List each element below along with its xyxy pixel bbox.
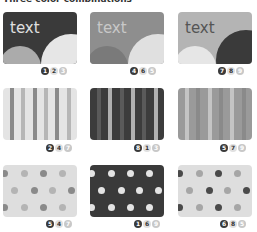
- stripe: [10, 88, 14, 140]
- dot: [98, 187, 105, 194]
- dot: [146, 204, 153, 211]
- dot: [155, 187, 162, 194]
- circle-shape: [128, 34, 164, 64]
- color-number-badge: 5: [220, 144, 228, 152]
- dot: [243, 187, 250, 194]
- dot: [21, 170, 28, 177]
- dot: [3, 170, 8, 177]
- stripe: [196, 88, 200, 140]
- stripe: [230, 88, 234, 140]
- dot: [224, 187, 231, 194]
- dot: [11, 187, 18, 194]
- color-number-badge: 5: [148, 67, 156, 75]
- card-text: text: [10, 19, 40, 37]
- color-number-badge: 7: [64, 144, 72, 152]
- dot: [108, 204, 115, 211]
- color-number-badge: 9: [238, 144, 246, 152]
- stripe: [108, 88, 112, 140]
- card-text: text: [185, 19, 215, 37]
- color-card-6: [178, 88, 252, 140]
- color-number-badge: 7: [229, 144, 237, 152]
- circle-shape: [178, 46, 216, 64]
- badge-group-7: 547: [46, 220, 72, 228]
- dot: [178, 204, 183, 211]
- color-card-7: [3, 165, 77, 217]
- dot: [59, 204, 66, 211]
- color-number-badge: 6: [139, 67, 147, 75]
- stripe: [97, 88, 101, 140]
- color-card-8: [90, 165, 164, 217]
- stripe: [142, 88, 146, 140]
- dot: [234, 204, 241, 211]
- color-number-badge: 2: [46, 144, 54, 152]
- badge-group-3: 789: [218, 67, 244, 75]
- dot: [40, 170, 47, 177]
- color-number-badge: 9: [236, 67, 244, 75]
- color-card-2: text: [90, 12, 164, 64]
- stripe: [185, 88, 189, 140]
- color-number-badge: 5: [238, 220, 246, 228]
- circle-shape: [216, 30, 252, 64]
- dot: [215, 170, 222, 177]
- color-number-badge: 3: [152, 144, 160, 152]
- dot: [40, 204, 47, 211]
- color-number-badge: 6: [143, 220, 151, 228]
- dot: [108, 170, 115, 177]
- color-number-badge: 4: [55, 220, 63, 228]
- dot: [3, 204, 8, 211]
- stripe: [242, 88, 246, 140]
- color-card-5: [90, 88, 164, 140]
- color-number-badge: 3: [59, 67, 67, 75]
- stripe: [120, 88, 124, 140]
- color-card-3: text: [178, 12, 252, 64]
- stripe: [33, 88, 37, 140]
- color-number-badge: 1: [41, 67, 49, 75]
- color-card-4: [3, 88, 77, 140]
- circle-shape: [3, 46, 41, 64]
- dot: [127, 204, 134, 211]
- dot: [68, 187, 75, 194]
- badge-group-1: 123: [41, 67, 67, 75]
- dot: [90, 170, 95, 177]
- page-title: Three color combinations: [3, 0, 132, 4]
- card-text: text: [97, 19, 127, 37]
- dot: [59, 170, 66, 177]
- dot: [234, 170, 241, 177]
- dot: [206, 187, 213, 194]
- circle-shape: [41, 34, 77, 64]
- dot: [178, 170, 183, 177]
- badge-group-5: 813: [134, 144, 160, 152]
- stripe: [131, 88, 135, 140]
- color-number-badge: 1: [143, 144, 151, 152]
- color-number-badge: 4: [55, 144, 63, 152]
- color-number-badge: 1: [134, 220, 142, 228]
- dot: [196, 170, 203, 177]
- dot: [21, 204, 28, 211]
- dot: [215, 204, 222, 211]
- color-number-badge: 7: [64, 220, 72, 228]
- dot: [90, 204, 95, 211]
- color-number-badge: 8: [229, 220, 237, 228]
- dot: [186, 187, 193, 194]
- color-number-badge: 5: [46, 220, 54, 228]
- color-card-1: text: [3, 12, 77, 64]
- dot: [196, 204, 203, 211]
- color-number-badge: 8: [227, 67, 235, 75]
- color-number-badge: 7: [218, 67, 226, 75]
- badge-group-8: 169: [134, 220, 160, 228]
- dot: [136, 187, 143, 194]
- color-number-badge: 6: [220, 220, 228, 228]
- stripe: [21, 88, 25, 140]
- badge-group-4: 247: [46, 144, 72, 152]
- badge-group-2: 465: [130, 67, 156, 75]
- stripe: [55, 88, 59, 140]
- stripe: [67, 88, 71, 140]
- badge-group-9: 685: [220, 220, 246, 228]
- circle-shape: [90, 46, 128, 64]
- color-number-badge: 9: [152, 220, 160, 228]
- dot: [118, 187, 125, 194]
- stripe: [219, 88, 223, 140]
- dot: [146, 170, 153, 177]
- color-number-badge: 4: [130, 67, 138, 75]
- dot: [127, 170, 134, 177]
